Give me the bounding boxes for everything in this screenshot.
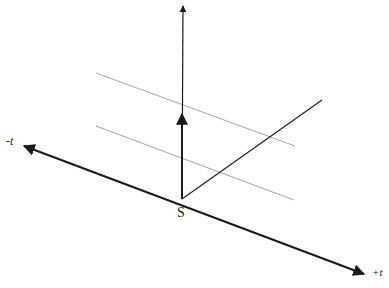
guide-line-lower (96, 126, 294, 200)
negative-t-label: -t (6, 134, 14, 148)
spacetime-diagram: S -t +t (0, 0, 389, 288)
origin-label: S (177, 205, 185, 220)
time-axis (24, 146, 364, 274)
guide-line-upper (96, 73, 295, 146)
positive-t-label: +t (372, 266, 383, 278)
